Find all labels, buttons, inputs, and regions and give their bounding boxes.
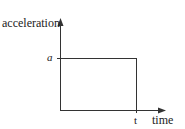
end-time-label: t: [134, 115, 137, 126]
y-axis-label: acceleration: [2, 17, 60, 29]
x-axis-label: time: [152, 114, 173, 126]
level-label: a: [47, 52, 53, 63]
acceleration-time-diagram: acceleration a t time: [0, 0, 185, 129]
